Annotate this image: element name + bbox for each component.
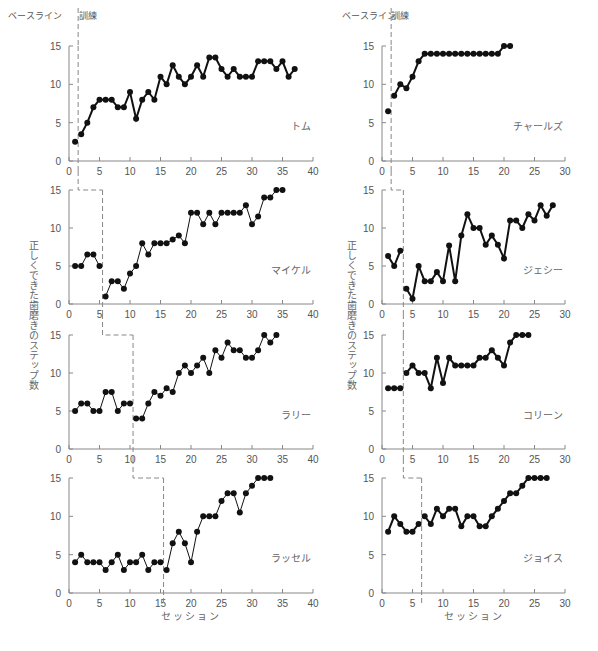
x-tick-label: 10 xyxy=(437,166,449,177)
data-point xyxy=(72,408,78,414)
data-point xyxy=(483,242,489,248)
data-point xyxy=(97,559,103,565)
data-point xyxy=(139,552,145,558)
data-point xyxy=(176,233,182,239)
x-tick-label: 5 xyxy=(410,166,416,177)
participant-name: ジェシー xyxy=(523,265,563,276)
x-tick-label: 20 xyxy=(498,454,510,465)
data-point xyxy=(519,483,525,489)
data-point xyxy=(255,347,261,353)
data-point xyxy=(403,529,409,535)
data-point xyxy=(452,51,458,57)
data-point xyxy=(170,62,176,68)
data-point xyxy=(428,278,434,284)
panel-1-1: 051015051015202530ジェシー xyxy=(363,171,571,320)
participant-name: ラッセル xyxy=(271,553,311,564)
x-tick-label: 0 xyxy=(379,598,385,609)
data-point xyxy=(194,529,200,535)
y-tick-label: 0 xyxy=(55,588,61,599)
data-point xyxy=(495,242,501,248)
panel-0-1: 0510150510152025303540マイケル xyxy=(50,171,319,320)
data-point xyxy=(170,236,176,242)
data-point xyxy=(428,51,434,57)
data-point xyxy=(477,51,483,57)
data-point xyxy=(261,195,267,201)
data-point xyxy=(97,408,103,414)
data-point xyxy=(495,51,501,57)
data-point xyxy=(72,139,78,145)
panel-1-3: 051015051015202530ジョイス xyxy=(363,459,571,609)
x-tick-label: 40 xyxy=(307,166,319,177)
y-tick-label: 5 xyxy=(55,118,61,129)
data-point xyxy=(188,370,194,376)
data-point xyxy=(397,385,403,391)
data-point xyxy=(477,355,483,361)
panel-0-2: 0510150510152025303540ラリー xyxy=(50,314,319,465)
data-point xyxy=(538,475,544,481)
x-tick-label: 15 xyxy=(468,166,480,177)
data-point xyxy=(446,51,452,57)
data-point xyxy=(158,74,164,80)
data-point xyxy=(249,221,255,227)
y-tick-label: 15 xyxy=(50,41,62,52)
y-tick-label: 0 xyxy=(55,156,61,167)
participant-name: ジョイス xyxy=(523,553,563,564)
y-tick-label: 5 xyxy=(368,118,374,129)
data-point xyxy=(452,362,458,368)
data-point xyxy=(471,362,477,368)
plots-layer: 0510150510152025303540トム0510150510152025… xyxy=(50,8,571,609)
data-point xyxy=(403,370,409,376)
x-tick-label: 25 xyxy=(216,166,228,177)
data-point xyxy=(212,347,218,353)
data-point xyxy=(127,400,133,406)
data-point xyxy=(72,263,78,269)
training-label-right: 訓練 xyxy=(391,10,409,21)
data-point xyxy=(501,498,507,504)
data-point xyxy=(84,400,90,406)
data-point xyxy=(243,74,249,80)
data-point xyxy=(397,248,403,254)
data-point xyxy=(188,559,194,565)
x-tick-label: 25 xyxy=(529,166,541,177)
data-point xyxy=(182,81,188,87)
data-point xyxy=(133,416,139,422)
data-point xyxy=(188,74,194,80)
data-point xyxy=(115,408,121,414)
data-point xyxy=(440,51,446,57)
data-point xyxy=(532,475,538,481)
data-point xyxy=(440,380,446,386)
x-tick-label: 20 xyxy=(498,598,510,609)
phase-labels-left: ベースライン 訓練 xyxy=(8,10,97,21)
data-point xyxy=(109,559,115,565)
data-point xyxy=(97,97,103,103)
y-tick-label: 15 xyxy=(363,185,375,196)
panel-0-0: 0510150510152025303540トム xyxy=(50,8,319,177)
x-tick-label: 15 xyxy=(468,454,480,465)
data-point xyxy=(188,210,194,216)
data-point xyxy=(90,408,96,414)
data-point xyxy=(194,62,200,68)
data-point xyxy=(471,225,477,231)
data-point xyxy=(286,74,292,80)
x-tick-label: 10 xyxy=(437,598,449,609)
data-point xyxy=(237,210,243,216)
data-point xyxy=(133,116,139,122)
data-point xyxy=(513,490,519,496)
y-tick-label: 5 xyxy=(368,406,374,417)
data-point xyxy=(212,55,218,61)
x-tick-label: 5 xyxy=(97,598,103,609)
y-axis-label-left: 正しくできた歯磨きのステップ数 xyxy=(28,240,39,391)
training-series-line xyxy=(136,335,276,419)
x-tick-label: 15 xyxy=(468,598,480,609)
data-point xyxy=(550,202,556,208)
data-point xyxy=(507,340,513,346)
data-point xyxy=(452,278,458,284)
data-point xyxy=(446,355,452,361)
data-point xyxy=(231,66,237,72)
y-tick-label: 10 xyxy=(50,223,62,234)
data-point xyxy=(151,97,157,103)
data-point xyxy=(403,286,409,292)
data-point xyxy=(225,74,231,80)
y-tick-label: 10 xyxy=(363,511,375,522)
y-tick-label: 5 xyxy=(55,550,61,561)
